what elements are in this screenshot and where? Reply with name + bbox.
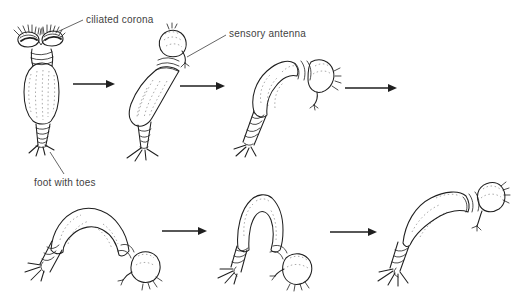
toes [127, 147, 158, 161]
foot-segments [243, 111, 266, 145]
rotifer-locomotion-diagram: ciliated corona foot with toes [0, 0, 512, 295]
arrow-right-icon [345, 84, 397, 92]
foot-with-toes-label: foot with toes [34, 177, 96, 188]
arrow-right-icon [330, 228, 377, 236]
toes [218, 267, 237, 284]
trunk [129, 67, 179, 126]
head [308, 60, 341, 93]
rotifer-stage-6 [378, 182, 510, 286]
sensory-antenna-graphic [472, 211, 482, 231]
toes [29, 145, 54, 156]
head [283, 254, 312, 291]
trunk [24, 63, 59, 124]
head [478, 182, 511, 212]
rotifer-stage-3 [234, 60, 341, 157]
sensory-antenna-graphic [310, 92, 318, 110]
arrow-right-icon [180, 82, 225, 90]
sensory-antenna-graphic [270, 269, 284, 280]
label-ciliated-corona: ciliated corona [57, 14, 154, 32]
ciliated-corona-graphic [14, 25, 65, 47]
toes [378, 268, 408, 286]
leader-line [187, 35, 226, 57]
leader-line [57, 20, 83, 32]
trunk [238, 195, 283, 252]
foot-segments [36, 124, 50, 145]
rotifer-stage-2 [127, 23, 189, 161]
toes [25, 262, 44, 281]
trunk [51, 208, 129, 255]
rotifer-stage-4 [25, 208, 162, 290]
arrow-right-icon [162, 227, 207, 235]
leader-line [50, 152, 64, 174]
label-foot-with-toes: foot with toes [34, 152, 96, 188]
sensory-antenna-label: sensory antenna [229, 28, 306, 39]
head [131, 252, 162, 290]
trunk [253, 61, 298, 117]
rotifer-locomotion-diagram-page: ciliated corona foot with toes [0, 0, 512, 295]
rotifer-stage-5 [218, 195, 312, 291]
trunk [403, 192, 469, 246]
neck-segments [270, 245, 287, 259]
toes [234, 143, 256, 157]
label-sensory-antenna: sensory antenna [187, 28, 306, 57]
rotifer-stage-1 [14, 25, 65, 156]
arrow-right-icon [73, 80, 115, 88]
ciliated-corona-label: ciliated corona [86, 14, 154, 25]
sensory-antenna-graphic [118, 272, 132, 285]
